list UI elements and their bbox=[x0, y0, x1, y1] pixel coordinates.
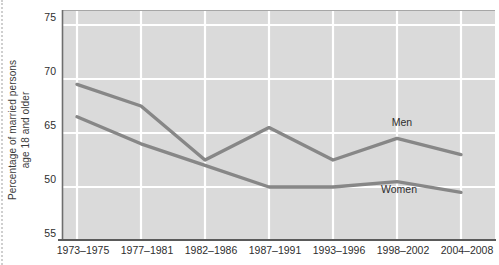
page-edge-dotted-line bbox=[1, 0, 3, 265]
y-axis-title: Percentage of married persons age 18 and… bbox=[7, 44, 33, 216]
x-tick-label: 1982–1986 bbox=[185, 244, 238, 256]
x-tick-label: 1998–2002 bbox=[377, 244, 430, 256]
y-axis-title-line2: age 18 and older bbox=[20, 44, 33, 216]
plot-area bbox=[62, 10, 495, 241]
x-tick-label: 1993–1996 bbox=[313, 244, 366, 256]
figure: Percentage of married persons age 18 and… bbox=[0, 0, 499, 265]
y-axis-title-line1: Percentage of married persons bbox=[7, 44, 20, 216]
y-tick-label: 50 bbox=[44, 173, 56, 185]
y-tick-label: 65 bbox=[44, 119, 56, 131]
y-tick-label: 70 bbox=[44, 65, 56, 77]
x-tick-label: 1977–1981 bbox=[121, 244, 174, 256]
x-tick-label: 1987–1991 bbox=[249, 244, 302, 256]
y-tick-label: 75 bbox=[44, 11, 56, 23]
y-tick-label: 55 bbox=[44, 227, 56, 239]
x-tick-label: 1973–1975 bbox=[57, 244, 110, 256]
line-chart: 75706550551973–19751977–19811982–1986198… bbox=[0, 0, 499, 265]
series-label-women: Women bbox=[381, 183, 417, 195]
x-tick-label: 2004–2008 bbox=[441, 244, 494, 256]
series-label-men: Men bbox=[392, 116, 413, 128]
